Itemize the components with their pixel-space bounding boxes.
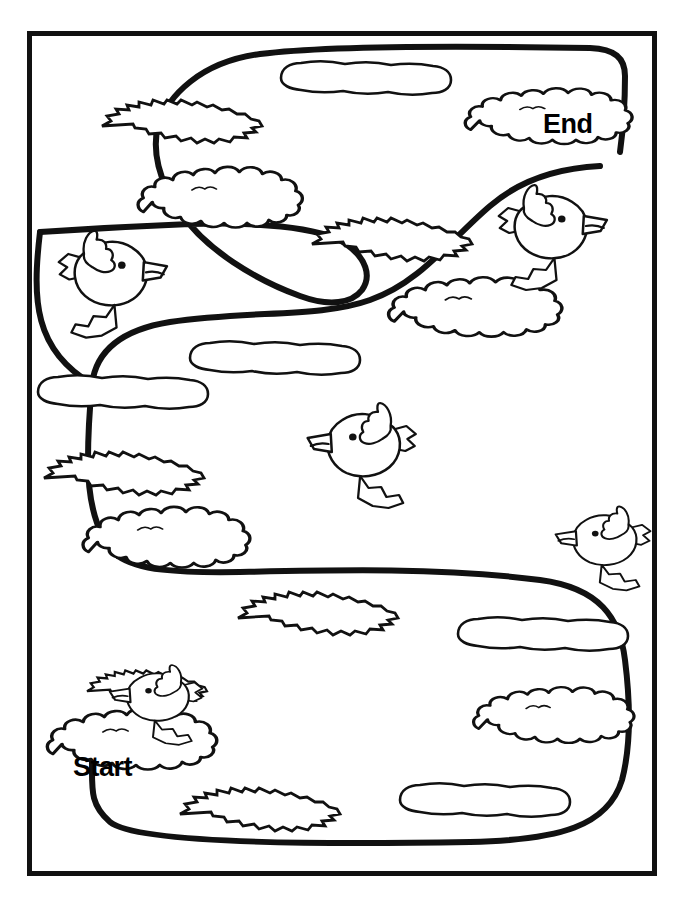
thin-oval-cloud-lower-right (458, 617, 628, 651)
maze-canvas: Start End (0, 0, 683, 907)
end-label: End (543, 109, 593, 139)
start-label: Start (73, 752, 133, 782)
maze-worksheet: Start End (0, 0, 683, 907)
thin-oval-cloud-top (281, 61, 451, 95)
thin-oval-cloud-mid-upper (190, 341, 360, 375)
thin-oval-cloud-mid-left (38, 375, 208, 409)
thin-oval-cloud-bottom (400, 783, 570, 817)
